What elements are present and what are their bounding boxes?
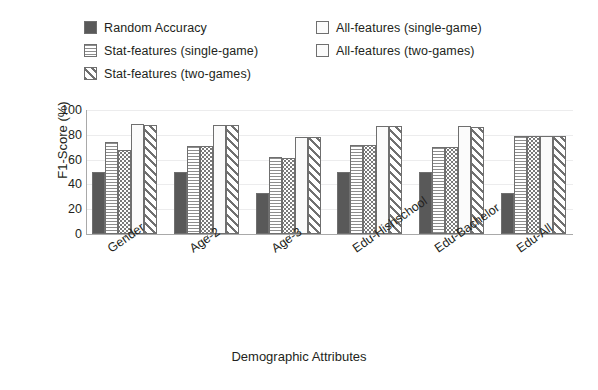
y-axis-tick-label: 80 bbox=[52, 129, 82, 141]
bar[interactable] bbox=[337, 172, 350, 234]
bar[interactable] bbox=[308, 137, 321, 234]
bar[interactable] bbox=[514, 136, 527, 234]
bar[interactable] bbox=[226, 125, 239, 234]
bar-group bbox=[501, 110, 566, 234]
legend-swatch-icon bbox=[316, 44, 329, 57]
bar[interactable] bbox=[92, 172, 105, 234]
legend-entry[interactable]: All-features (two-games) bbox=[316, 39, 554, 62]
bar-chart-figure: Random AccuracyAll-features (single-game… bbox=[0, 0, 598, 390]
y-axis-tick-label: 100 bbox=[52, 104, 82, 116]
legend-label: Stat-features (single-game) bbox=[104, 44, 258, 58]
bar[interactable] bbox=[269, 157, 282, 234]
bar[interactable] bbox=[445, 147, 458, 234]
bar[interactable] bbox=[540, 136, 553, 234]
legend-label: Stat-features (two-games) bbox=[104, 67, 251, 81]
bar[interactable] bbox=[527, 136, 540, 234]
bar[interactable] bbox=[187, 146, 200, 234]
legend-swatch-icon bbox=[84, 21, 97, 34]
bar[interactable] bbox=[131, 124, 144, 234]
y-axis-tick-labels: 100806040200 bbox=[52, 104, 82, 240]
bar[interactable] bbox=[144, 125, 157, 234]
legend-entry[interactable]: All-features (single-game) bbox=[316, 16, 554, 39]
bar[interactable] bbox=[200, 146, 213, 234]
bar[interactable] bbox=[553, 136, 566, 234]
y-axis-tick-label: 60 bbox=[52, 154, 82, 166]
legend-swatch-icon bbox=[316, 21, 329, 34]
bar[interactable] bbox=[174, 172, 187, 234]
legend-swatch-icon bbox=[84, 44, 97, 57]
legend-entry[interactable]: Random Accuracy bbox=[84, 16, 316, 39]
legend-label: Random Accuracy bbox=[104, 21, 207, 35]
legend-entry[interactable]: Stat-features (single-game) bbox=[84, 39, 316, 62]
bar[interactable] bbox=[213, 125, 226, 234]
legend-entry[interactable]: Stat-features (two-games) bbox=[84, 62, 316, 85]
x-axis-title: Demographic Attributes bbox=[0, 349, 598, 364]
y-axis-tick-label: 40 bbox=[52, 178, 82, 190]
bar[interactable] bbox=[501, 193, 514, 234]
bar[interactable] bbox=[295, 137, 308, 234]
y-axis-tick-label: 0 bbox=[52, 228, 82, 240]
bar-group bbox=[92, 110, 157, 234]
legend-label: All-features (single-game) bbox=[336, 21, 482, 35]
legend-label: All-features (two-games) bbox=[336, 44, 475, 58]
bar[interactable] bbox=[350, 145, 363, 234]
legend-swatch-icon bbox=[84, 67, 97, 80]
bar[interactable] bbox=[118, 150, 131, 234]
y-axis-tick-label: 20 bbox=[52, 203, 82, 215]
bar-group bbox=[174, 110, 239, 234]
bar[interactable] bbox=[105, 142, 118, 234]
bar[interactable] bbox=[363, 145, 376, 234]
bar-group bbox=[256, 110, 321, 234]
bar[interactable] bbox=[432, 147, 445, 234]
chart-legend: Random AccuracyAll-features (single-game… bbox=[84, 16, 554, 85]
bar[interactable] bbox=[256, 193, 269, 234]
bar[interactable] bbox=[282, 158, 295, 234]
bar-groups-container bbox=[86, 110, 572, 234]
